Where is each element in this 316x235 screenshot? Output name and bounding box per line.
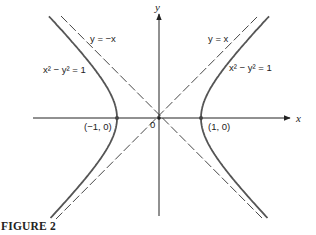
origin-dot <box>157 116 161 120</box>
figure-caption: FIGURE 2 <box>1 220 56 232</box>
vertex-right-dot <box>199 116 203 120</box>
y-axis-label: y <box>154 1 160 13</box>
hyperbola-left-branch <box>49 16 117 218</box>
hyperbola-right-branch <box>201 16 269 218</box>
origin-label: 0 <box>150 119 155 130</box>
vertex-right-label: (1, 0) <box>208 121 230 132</box>
asymptote-x-label: y = x <box>208 33 229 44</box>
equation-label-right: x² − y² = 1 <box>229 62 272 73</box>
x-axis-label: x <box>295 112 301 124</box>
hyperbola-figure: y x 0 (−1, 0) (1, 0) y = −x y = x x² − y… <box>0 0 316 235</box>
vertex-left-label: (−1, 0) <box>84 121 112 132</box>
vertex-left-dot <box>115 116 119 120</box>
asymptote-neg-x-label: y = −x <box>90 33 116 44</box>
equation-label-left: x² − y² = 1 <box>43 64 86 75</box>
asymptote-y-equals-neg-x <box>61 16 262 218</box>
